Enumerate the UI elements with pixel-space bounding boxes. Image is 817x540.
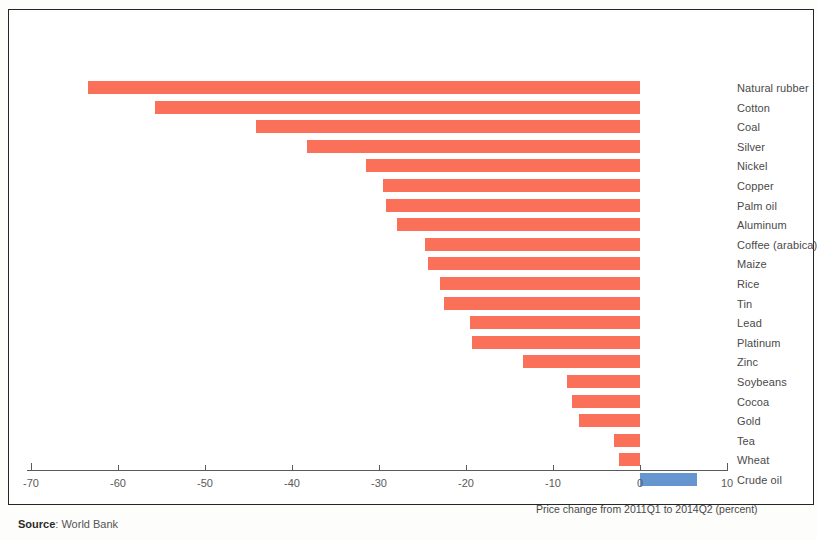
category-label: Coal [737,117,760,137]
bar-row [0,352,817,372]
x-tick [292,465,293,471]
category-label: Tea [737,431,755,451]
category-label: Wheat [737,450,769,470]
category-label: Rice [737,274,759,294]
bar-row [0,372,817,392]
bar-row [0,450,817,470]
category-label: Maize [737,254,767,274]
bar-row [0,274,817,294]
bar-row [0,176,817,196]
bar-silver [307,140,640,153]
x-axis-caption: Price change from 2011Q1 to 2014Q2 (perc… [536,503,758,515]
source-label: Source [18,518,55,530]
x-axis-line [27,470,728,471]
category-label: Coffee (arabica) [737,235,817,255]
category-label: Zinc [737,352,758,372]
bar-coal [256,120,640,133]
x-tick-label: -20 [446,477,486,489]
bar-palm-oil [386,199,640,212]
category-label: Cotton [737,98,770,118]
category-label: Palm oil [737,196,777,216]
category-label: Lead [737,313,762,333]
bar-natural-rubber [88,81,640,94]
bar-row [0,117,817,137]
source-value: World Bank [61,518,118,530]
bar-copper [383,179,640,192]
x-tick [466,465,467,471]
bar-platinum [472,336,640,349]
category-label: Soybeans [737,372,787,392]
category-label: Nickel [737,156,768,176]
x-tick [640,465,641,471]
category-label: Tin [737,294,752,314]
bar-row [0,294,817,314]
category-label: Copper [737,176,774,196]
bar-row [0,215,817,235]
bar-zinc [523,355,640,368]
bar-nickel [366,159,640,172]
x-tick-label: -40 [272,477,312,489]
x-tick-label: -30 [359,477,399,489]
x-tick [31,463,32,471]
category-label: Silver [737,137,765,157]
category-label: Cocoa [737,392,769,412]
x-tick [553,465,554,471]
x-tick-label: 0 [620,477,660,489]
bar-wheat [619,453,640,466]
x-tick [727,463,728,471]
bar-row [0,313,817,333]
category-label: Natural rubber [737,78,809,98]
bar-row [0,333,817,353]
bar-row [0,98,817,118]
bar-row [0,156,817,176]
bar-maize [428,257,640,270]
figure-container: Natural rubberCottonCoalSilverNickelCopp… [0,0,817,540]
bar-cotton [155,101,640,114]
category-label: Aluminum [737,215,787,235]
bar-row [0,392,817,412]
bar-row [0,235,817,255]
x-tick [205,465,206,471]
plot-area: Natural rubberCottonCoalSilverNickelCopp… [0,0,817,540]
source-note: Source: World Bank [18,518,118,530]
bar-row [0,431,817,451]
x-tick-label: -50 [185,477,225,489]
x-tick [379,465,380,471]
x-tick [118,465,119,471]
x-tick-label: -10 [533,477,573,489]
category-label: Gold [737,411,761,431]
bar-gold [579,414,640,427]
x-tick-label: -60 [98,477,138,489]
bar-aluminum [397,218,640,231]
bar-row [0,411,817,431]
bar-row [0,78,817,98]
bar-tin [444,297,640,310]
bar-row [0,254,817,274]
bar-cocoa [572,395,640,408]
x-tick-label: -70 [11,477,51,489]
bar-soybeans [567,375,640,388]
bar-tea [614,434,640,447]
bar-rice [440,277,640,290]
bar-lead [470,316,640,329]
bar-row [0,137,817,157]
bar-coffee-arabica [425,238,640,251]
x-tick-label: 10 [707,477,747,489]
category-label: Platinum [737,333,781,353]
bar-row [0,196,817,216]
